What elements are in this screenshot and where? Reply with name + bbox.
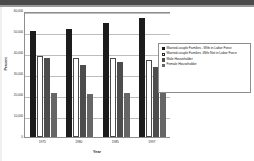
legend-item: Married-couple Families -Wife Not in Lab… (162, 52, 249, 56)
bar (44, 58, 50, 137)
chart-page: Percent 60,00050,00040,00030,00020,00010… (0, 0, 254, 161)
chart-legend: Married-couple Families - Wife in Labor … (158, 43, 251, 93)
y-tick-label: 10,000 (1, 115, 23, 118)
bar (124, 93, 130, 137)
x-axis-title: Year (24, 150, 170, 154)
y-tick-label: 30,000 (1, 73, 23, 76)
bars-container (25, 13, 170, 137)
bar (103, 23, 109, 137)
legend-swatch-icon (162, 64, 165, 67)
y-tick-label: 50,000 (1, 31, 23, 34)
legend-item: Female Householder (162, 63, 249, 67)
y-tick-label: 60,000 (1, 10, 23, 13)
bar (37, 56, 43, 137)
x-axis-tick-labels: 1975198019851997 (24, 140, 170, 148)
bar (110, 58, 116, 137)
y-tick-label: 40,000 (1, 52, 23, 55)
legend-label: Male Householder (166, 58, 192, 62)
legend-item: Married-couple Families - Wife in Labor … (162, 47, 249, 51)
bar-group (62, 13, 99, 137)
legend-item: Male Householder (162, 58, 249, 62)
scan-top-band-shadow (0, 5, 254, 7)
x-tick-label: 1980 (64, 140, 94, 144)
bar (80, 65, 86, 137)
legend-label: Female Householder (166, 63, 196, 67)
x-tick-label: 1997 (137, 140, 167, 144)
legend-swatch-icon (162, 58, 165, 61)
bar (51, 93, 57, 137)
bar (139, 18, 145, 137)
bar (66, 29, 72, 137)
y-tick-label: 0 (1, 136, 23, 139)
legend-label: Married-couple Families - Wife in Labor … (166, 47, 231, 51)
x-tick-label: 1975 (27, 140, 57, 144)
bar (146, 60, 152, 137)
x-tick-label: 1985 (100, 140, 130, 144)
y-axis-tick-labels: 60,00050,00040,00030,00020,00010,0000 (0, 12, 23, 138)
plot-area (24, 12, 170, 138)
bar (160, 93, 166, 137)
y-tick-label: 20,000 (1, 94, 23, 97)
legend-swatch-icon (162, 53, 165, 56)
bar (117, 62, 123, 137)
legend-label: Married-couple Families -Wife Not in Lab… (166, 52, 236, 56)
bar (87, 94, 93, 137)
legend-swatch-icon (162, 47, 165, 50)
bar (30, 31, 36, 137)
bar (73, 58, 79, 137)
bar-group (25, 13, 62, 137)
bar-group (98, 13, 135, 137)
